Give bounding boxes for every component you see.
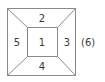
diagonal-top-right	[58, 9, 76, 28]
face-bottom-label: 4	[39, 61, 45, 72]
face-center-label: 1	[39, 37, 45, 48]
face-right-label: 3	[64, 37, 70, 48]
cube-net-diagram: 2 5 1 3 4 (6)	[0, 0, 105, 82]
diagonal-top-left	[8, 9, 28, 28]
face-hidden-label: (6)	[81, 37, 95, 48]
diagonal-bottom-left	[8, 57, 28, 76]
diagonal-bottom-right	[58, 57, 76, 76]
face-left-label: 5	[14, 37, 20, 48]
face-top-label: 2	[39, 13, 45, 24]
